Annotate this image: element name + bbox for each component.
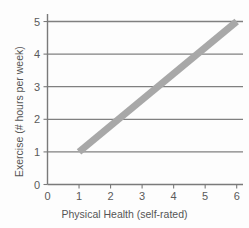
x-tick-label-6: 6 <box>234 191 240 202</box>
x-tick-label-1: 1 <box>76 191 82 202</box>
x-tick-label-3: 3 <box>139 191 145 202</box>
x-axis-title: Physical Health (self-rated) <box>0 208 249 220</box>
x-tick-label-5: 5 <box>202 191 208 202</box>
chart-container: 012345 0123456 Physical Health (self-rat… <box>0 0 249 228</box>
x-tick-label-2: 2 <box>108 191 114 202</box>
y-tick-label-0: 0 <box>22 179 40 190</box>
x-tick-label-0: 0 <box>44 191 50 202</box>
y-tick-label-5: 5 <box>22 16 40 27</box>
x-tick-label-4: 4 <box>171 191 177 202</box>
y-axis-title: Exercise (# hours per week) <box>13 46 25 177</box>
